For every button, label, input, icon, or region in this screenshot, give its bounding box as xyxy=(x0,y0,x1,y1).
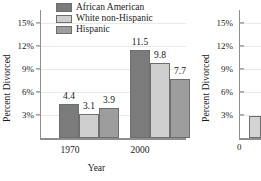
legend-item-white-non-hispanic[interactable]: White non-Hispanic xyxy=(56,13,153,24)
y-tick-mark xyxy=(240,68,244,69)
bar-value-label: 7.7 xyxy=(168,67,192,77)
bar-partial-clipped[interactable] xyxy=(249,116,261,138)
y-tick-label: 15% xyxy=(18,19,35,28)
x-tick-label-1970: 1970 xyxy=(52,145,88,155)
legend: African American White non-Hispanic Hisp… xyxy=(56,2,153,36)
bar-value-label: 9.8 xyxy=(148,51,172,61)
y-tick-mark xyxy=(36,91,40,92)
bar-2000-white-non-hispanic[interactable] xyxy=(150,63,170,138)
bar-2000-hispanic[interactable] xyxy=(170,79,190,138)
legend-label: Hispanic xyxy=(76,25,110,35)
y-tick-mark xyxy=(240,45,244,46)
y-tick-mark xyxy=(240,22,244,23)
y-tick-label: 6% xyxy=(221,88,233,97)
y-tick-label: 3% xyxy=(221,111,233,120)
bar-2000-african-american[interactable] xyxy=(130,50,150,138)
bar-value-label: 11.5 xyxy=(127,38,153,48)
y-tick-mark xyxy=(36,68,40,69)
x-axis-line-right xyxy=(239,138,261,140)
x-axis-title: Year xyxy=(0,163,193,173)
bar-value-label: 3.9 xyxy=(97,96,121,106)
legend-item-african-american[interactable]: African American xyxy=(56,2,153,13)
y-axis-tick-labels-right: 15% 12% 9% 6% 3% xyxy=(207,0,233,181)
bar-1970-african-american[interactable] xyxy=(59,104,79,138)
y-tick-label: 9% xyxy=(22,65,34,74)
y-tick-label: 12% xyxy=(18,42,35,51)
plot-area-right xyxy=(239,10,261,138)
y-axis-tick-labels: 15% 12% 9% 6% 3% xyxy=(8,0,34,181)
origin-label-right: 0 xyxy=(237,142,242,152)
y-tick-mark xyxy=(36,45,40,46)
y-tick-label: 9% xyxy=(221,65,233,74)
y-tick-mark xyxy=(240,91,244,92)
bar-chart-divorce-rates: Percent Divorced 15% 12% 9% 6% 3% xyxy=(0,0,193,181)
gridline xyxy=(41,46,186,47)
legend-label: African American xyxy=(76,3,144,13)
legend-item-hispanic[interactable]: Hispanic xyxy=(56,24,153,35)
legend-label: White non-Hispanic xyxy=(76,14,153,24)
legend-swatch-icon xyxy=(56,26,72,35)
bar-1970-white-non-hispanic[interactable] xyxy=(79,114,99,138)
bar-1970-hispanic[interactable] xyxy=(99,108,119,138)
legend-swatch-icon xyxy=(56,3,72,12)
y-tick-mark xyxy=(240,114,244,115)
x-axis-line xyxy=(40,138,186,140)
y-tick-mark xyxy=(36,22,40,23)
bar-value-label: 4.4 xyxy=(57,92,81,102)
y-tick-mark xyxy=(36,114,40,115)
legend-swatch-icon xyxy=(56,15,72,24)
bar-chart-partial-right: Percent Divorced 15% 12% 9% 6% 3% 0 xyxy=(193,0,261,181)
y-tick-label: 6% xyxy=(22,88,34,97)
figure-canvas: Percent Divorced 15% 12% 9% 6% 3% xyxy=(0,0,261,181)
x-tick-label-2000: 2000 xyxy=(122,145,158,155)
y-axis-line-right xyxy=(239,10,240,138)
y-tick-label: 3% xyxy=(22,111,34,120)
y-tick-label: 15% xyxy=(217,19,234,28)
y-axis-line xyxy=(40,10,41,138)
y-tick-label: 12% xyxy=(217,42,234,51)
